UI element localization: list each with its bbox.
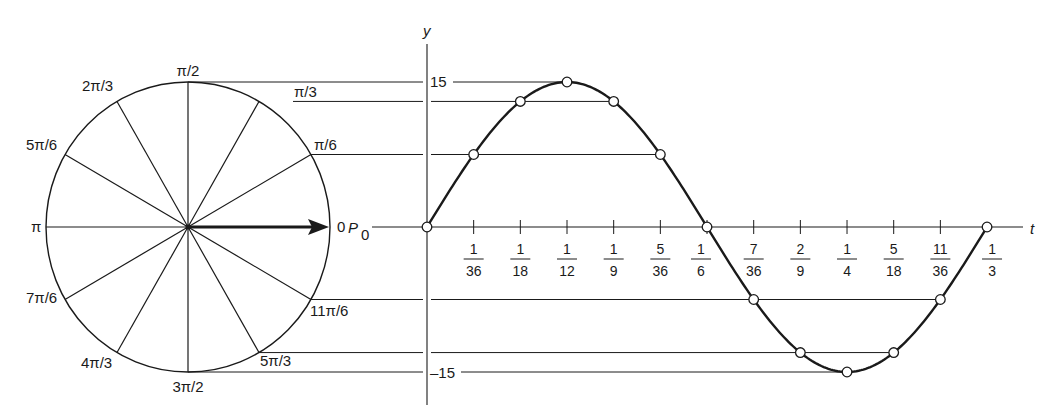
tick-numerator: 1: [988, 241, 996, 257]
spoke-line: [65, 155, 188, 228]
sample-point-marker: [842, 367, 852, 377]
sample-point-marker: [749, 295, 759, 305]
tick-denominator: 36: [746, 263, 762, 279]
angle-label: 3π/2: [172, 378, 203, 395]
sample-point-marker: [702, 222, 712, 232]
tick-denominator: 6: [697, 263, 705, 279]
axes: [372, 44, 1023, 405]
spoke-line: [117, 101, 188, 227]
tick-numerator: 1: [610, 241, 618, 257]
tick-denominator: 18: [886, 263, 902, 279]
tick-denominator: 36: [933, 263, 949, 279]
angle-label: 5π/3: [260, 352, 291, 369]
unit-circle: [46, 82, 330, 372]
angle-label: 7π/6: [26, 289, 57, 306]
sample-point-marker: [516, 97, 526, 107]
sample-point-marker: [982, 222, 992, 232]
tick-numerator: 7: [750, 241, 758, 257]
spoke-line: [188, 101, 259, 227]
angle-label: 4π/3: [81, 354, 112, 371]
tick-numerator: 1: [470, 241, 478, 257]
tick-denominator: 36: [466, 263, 482, 279]
center-dot: [186, 225, 191, 230]
y-min-label: –15: [430, 364, 455, 381]
sample-point-marker: [469, 150, 479, 160]
tick-numerator: 1: [516, 241, 524, 257]
angle-label: π/2: [177, 62, 200, 79]
sample-point-marker: [656, 150, 666, 160]
sample-point-marker: [562, 77, 572, 87]
tick-denominator: 12: [559, 263, 575, 279]
tick-numerator: 5: [656, 241, 664, 257]
tick-numerator: 11: [933, 241, 948, 257]
tick-denominator: 9: [610, 263, 618, 279]
spoke-line: [117, 227, 188, 353]
tick-denominator: 4: [843, 263, 851, 279]
phasor-label: P: [348, 219, 358, 236]
phasor-subscript: 0: [361, 226, 369, 243]
tick-denominator: 9: [796, 263, 804, 279]
tick-numerator: 5: [890, 241, 898, 257]
tick-denominator: 18: [513, 263, 529, 279]
angle-label: π/6: [314, 136, 337, 153]
angle-label: π/3: [294, 83, 317, 100]
tick-numerator: 1: [697, 241, 705, 257]
sample-point-marker: [422, 222, 432, 232]
sample-point-marker: [609, 97, 619, 107]
spoke-line: [188, 155, 311, 228]
spoke-line: [65, 227, 188, 300]
phasor-sine-diagram: 0π/6π/3π/22π/35π/6π7π/64π/33π/25π/311π/6…: [0, 0, 1054, 418]
y-axis-label: y: [422, 22, 432, 39]
sample-point-marker: [889, 348, 899, 358]
sample-point-marker: [796, 348, 806, 358]
y-max-label: 15: [430, 73, 447, 90]
tick-denominator: 36: [653, 263, 669, 279]
sample-point-marker: [936, 295, 946, 305]
angle-label: 0: [337, 218, 345, 235]
angle-label: 11π/6: [310, 302, 348, 319]
tick-denominator: 3: [988, 263, 996, 279]
tick-numerator: 1: [563, 241, 571, 257]
angle-label: 2π/3: [82, 77, 113, 94]
spoke-line: [188, 227, 259, 353]
tick-numerator: 1: [843, 241, 851, 257]
angle-label: π: [31, 218, 41, 235]
tick-numerator: 2: [796, 241, 804, 257]
angle-label: 5π/6: [26, 136, 57, 153]
spoke-line: [188, 227, 311, 300]
t-axis-label: t: [1030, 220, 1035, 237]
